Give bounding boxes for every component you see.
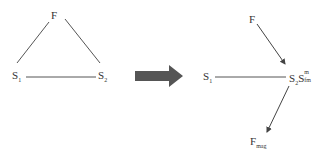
- transition-arrow: [135, 65, 183, 87]
- edge-f-s2: [65, 19, 100, 63]
- node-s1-right: S1: [203, 71, 212, 84]
- node-s2sfm: S2Smfm: [289, 71, 312, 86]
- diagram-canvas: [0, 0, 325, 154]
- node-f-right: F: [249, 14, 255, 25]
- edge-f-s2sfm: [257, 24, 285, 64]
- node-s2-left: S2: [98, 70, 107, 83]
- node-f-left: F: [51, 10, 57, 21]
- node-fmag: Fmag: [250, 136, 266, 149]
- edge-f-s1: [17, 22, 49, 63]
- edge-s2sfm-fmag: [267, 86, 289, 132]
- node-s1-left: S1: [12, 70, 21, 83]
